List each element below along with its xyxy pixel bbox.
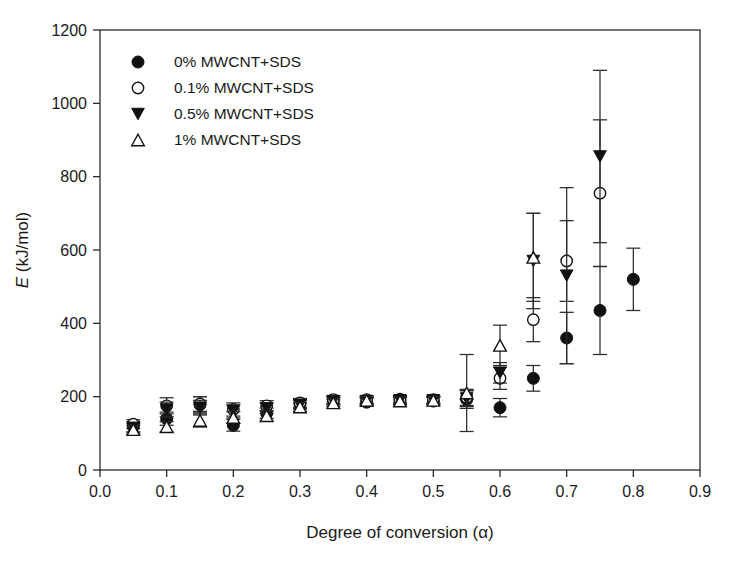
x-tick-label: 0.0 (89, 483, 111, 500)
y-tick-label: 600 (60, 242, 87, 259)
data-points-layer (126, 70, 640, 435)
legend-marker (132, 82, 143, 93)
legend-marker (132, 56, 144, 68)
data-point (560, 270, 573, 282)
x-tick-label: 0.5 (422, 483, 444, 500)
x-tick-label: 0.2 (222, 483, 244, 500)
x-tick-label: 0.9 (689, 483, 711, 500)
legend-marker (132, 134, 145, 146)
y-tick-label: 200 (60, 388, 87, 405)
figure-container: 020040060080010001200 0.00.10.20.30.40.5… (0, 0, 729, 566)
filled-down-triangle-marker (132, 108, 145, 120)
x-tick-label: 0.4 (356, 483, 378, 500)
y-tick-label: 1200 (51, 22, 87, 39)
y-tick-label: 0 (78, 462, 87, 479)
data-point (627, 273, 639, 285)
activation-energy-scatter-chart: 020040060080010001200 0.00.10.20.30.40.5… (0, 0, 729, 566)
legend-label: 1% MWCNT+SDS (174, 131, 301, 148)
y-tick-label: 400 (60, 315, 87, 332)
x-tick-label: 0.6 (489, 483, 511, 500)
filled-circle-marker (627, 273, 639, 285)
data-point (494, 340, 507, 352)
filled-circle-marker (527, 372, 539, 384)
filled-down-triangle-marker (560, 270, 573, 282)
data-point (194, 415, 207, 427)
legend-label: 0.1% MWCNT+SDS (174, 79, 314, 96)
x-axis-ticks: 0.00.10.20.30.40.50.60.70.80.9 (89, 470, 711, 500)
data-point (594, 305, 606, 317)
data-point (594, 151, 607, 163)
open-up-triangle-marker (194, 415, 207, 427)
filled-down-triangle-marker (594, 151, 607, 163)
legend-marker (132, 108, 145, 120)
y-axis-title: E (kJ/mol) (13, 212, 32, 289)
data-series (126, 213, 540, 435)
data-point (527, 372, 539, 384)
open-circle-marker (132, 82, 143, 93)
y-tick-label: 1000 (51, 95, 87, 112)
x-axis-title: Degree of conversion (α) (306, 523, 493, 542)
chart-legend: 0% MWCNT+SDS0.1% MWCNT+SDS0.5% MWCNT+SDS… (132, 53, 314, 148)
y-axis-ticks: 020040060080010001200 (51, 22, 100, 479)
y-tick-label: 800 (60, 168, 87, 185)
x-tick-label: 0.8 (622, 483, 644, 500)
legend-label: 0.5% MWCNT+SDS (174, 105, 314, 122)
x-tick-label: 0.1 (156, 483, 178, 500)
filled-circle-marker (494, 402, 506, 414)
x-tick-label: 0.3 (289, 483, 311, 500)
open-circle-marker (528, 314, 539, 325)
data-point (528, 314, 539, 325)
open-up-triangle-marker (494, 340, 507, 352)
filled-circle-marker (132, 56, 144, 68)
y-axis-units: (kJ/mol) (13, 212, 32, 277)
y-axis-symbol: E (13, 276, 32, 288)
legend-label: 0% MWCNT+SDS (174, 53, 301, 70)
open-up-triangle-marker (132, 134, 145, 146)
x-tick-label: 0.7 (556, 483, 578, 500)
data-point (494, 402, 506, 414)
filled-circle-marker (594, 305, 606, 317)
